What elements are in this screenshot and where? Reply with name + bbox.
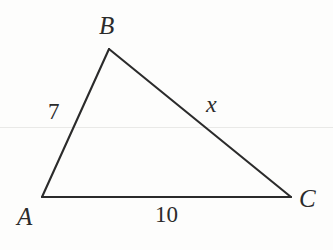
vertex-label-a: A <box>17 204 32 229</box>
side-length-label-bc: x <box>206 92 217 116</box>
side-length-label-ac: 10 <box>155 203 178 226</box>
side-length-label-ab: 7 <box>48 100 60 123</box>
geometry-figure-canvas: B A C 7 x 10 <box>0 0 333 250</box>
triangle-edge-bc <box>109 49 291 197</box>
vertex-label-c: C <box>299 186 316 211</box>
vertex-label-b: B <box>99 13 114 38</box>
